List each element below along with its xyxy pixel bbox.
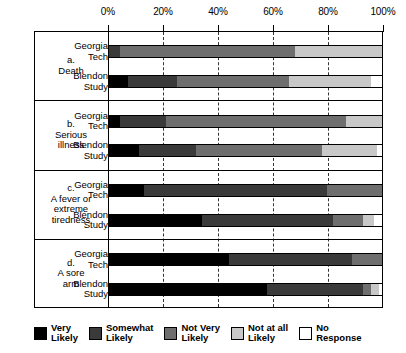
bar-segment [109,254,229,265]
legend-swatch [299,327,312,340]
bar-segment [109,284,267,295]
x-axis-tick [273,25,274,32]
bar-segment [120,46,295,57]
series-label-line: Study [46,289,108,300]
bar-segment [322,145,377,156]
legend-label-line: Likely [51,333,78,344]
legend-swatch [164,327,177,340]
bar-segment [128,76,177,87]
x-axis-tick-label: 80% [318,6,338,17]
legend-label: VeryLikely [51,323,78,344]
series-label-line: Tech [46,260,108,271]
stacked-bar [108,115,383,128]
legend-label: Not at allLikely [248,323,288,344]
legend-label: NoResponse [316,323,361,344]
stacked-bar [108,144,383,157]
bar-segment [166,116,346,127]
stacked-bar-chart: 0%20%40%60%80%100% a.DeathGeorgiaTechBle… [0,0,406,353]
bar-segment [371,284,379,295]
legend-label-line: Likely [181,333,220,344]
bar-segment [196,145,322,156]
group-separator [34,100,383,101]
series-label-line: Georgia [46,249,108,260]
x-axis-tick-labels: 0%20%40%60%80%100% [0,6,406,20]
group-separator [34,170,383,171]
bar-segment [109,76,128,87]
bar-segment [295,46,382,57]
series-label-line: Tech [46,190,108,201]
stacked-bar [108,184,383,197]
legend-label: Not VeryLikely [181,323,220,344]
bar-segment [120,116,166,127]
series-label-line: Study [46,82,108,93]
x-axis-tick [163,25,164,32]
stacked-bar [108,75,383,88]
bar-segment [202,215,333,226]
legend-item: Not VeryLikely [164,323,220,344]
series-label: GeorgiaTech [46,180,108,201]
bar-segment [363,284,371,295]
bar-segment [327,185,382,196]
legend-swatch [34,327,47,340]
series-label-line: Study [46,151,108,162]
bar-segment [346,116,381,127]
bar-segment [229,254,352,265]
x-axis-tick [218,25,219,32]
bar-segment [371,76,382,87]
bar-segment [379,284,382,295]
x-axis-tick-label: 60% [263,6,283,17]
legend-item: Not at allLikely [231,323,288,344]
series-label-line: Tech [46,52,108,63]
bar-segment [289,76,371,87]
bar-segment [177,76,289,87]
legend-swatch [89,327,102,340]
stacked-bar [108,214,383,227]
bar-segment [363,215,374,226]
x-axis-tick [108,25,109,32]
bar-segment [267,284,363,295]
x-axis-tick-label: 0% [101,6,115,17]
bar-segment [144,185,327,196]
series-label: BlendonStudy [46,279,108,300]
series-label: BlendonStudy [46,140,108,161]
legend-item: VeryLikely [34,323,78,344]
bar-segment [109,185,144,196]
bar-segment [139,145,196,156]
legend-swatch [231,327,244,340]
legend-label: SomewhatLikely [106,323,154,344]
x-axis-tick-label: 40% [208,6,228,17]
legend-item: NoResponse [299,323,361,344]
bar-segment [333,215,363,226]
bar-segment [374,215,382,226]
stacked-bar [108,253,383,266]
stacked-bar [108,283,383,296]
series-label-line: Blendon [46,71,108,82]
series-label: BlendonStudy [46,71,108,92]
stacked-bar [108,45,383,58]
series-label: BlendonStudy [46,210,108,231]
group-separator [34,239,383,240]
legend-label-line: Likely [248,333,288,344]
bar-segment [109,116,120,127]
x-axis-tick [328,25,329,32]
x-axis-tick-label: 100% [370,6,395,17]
bar-segment [109,46,120,57]
series-label: GeorgiaTech [46,249,108,270]
series-label: GeorgiaTech [46,41,108,62]
bar-segment [352,254,382,265]
series-label: GeorgiaTech [46,111,108,132]
bar-segment [109,215,202,226]
legend-label-line: Likely [106,333,154,344]
x-axis-tick-label: 20% [153,6,173,17]
x-axis-tick [383,25,384,32]
series-label-line: Study [46,220,108,231]
legend-item: SomewhatLikely [89,323,154,344]
bar-segment [377,145,382,156]
bar-segment [109,145,139,156]
series-label-line: Tech [46,121,108,132]
chart-legend: VeryLikelySomewhatLikelyNot VeryLikelyNo… [34,318,402,348]
legend-label-line: Response [316,333,361,344]
